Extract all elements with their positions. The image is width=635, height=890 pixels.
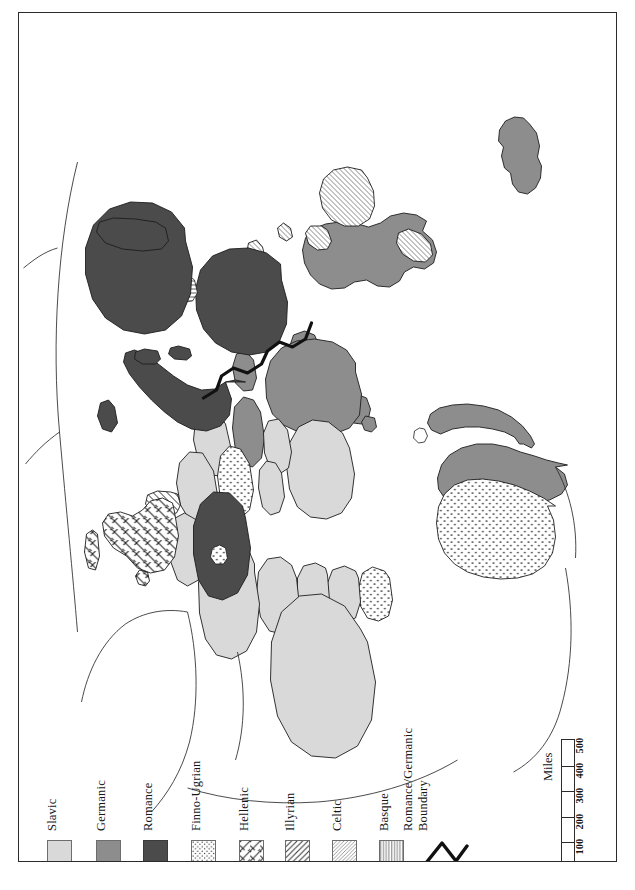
legend-label-slavic: Slavic <box>45 799 60 831</box>
legend-swatch-hellenic <box>239 840 264 862</box>
scale-bar-group: Miles 0 100 200 300 400 500 <box>539 731 617 862</box>
legend-swatch-finno-ugrian <box>191 840 216 862</box>
region-aegean-islands <box>135 570 149 586</box>
legend-label-illyrian: Illyrian <box>283 793 298 831</box>
region-iceland <box>498 117 541 194</box>
region-crete <box>84 530 99 570</box>
legend-label-romance: Romance <box>141 782 156 831</box>
legend-label-boundary-line2: Boundary <box>416 728 431 831</box>
scale-tick-200: 200 <box>574 814 585 830</box>
legend-label-basque: Basque <box>377 793 392 831</box>
region-cornwall-celtic <box>277 223 292 241</box>
legend-swatch-celtic <box>332 840 357 862</box>
region-estonia-finno-ugrian <box>358 567 392 621</box>
boundary-zigzag-icon <box>422 837 470 862</box>
legend-label-finno-ugrian: Finno-Ugrian <box>189 761 204 831</box>
region-corsica <box>168 346 191 360</box>
scale-tick-500: 500 <box>574 738 585 754</box>
map-legend: Slavic Germanic Romance Finno-Ugrian <box>39 703 469 862</box>
region-romania-romance <box>193 492 250 600</box>
region-sicily <box>97 400 117 432</box>
legend-label-boundary: Romance/Germanic Boundary <box>401 728 431 831</box>
map-frame: Slavic Germanic Romance Finno-Ugrian <box>18 12 617 862</box>
scale-tick-100: 100 <box>574 839 585 855</box>
legend-label-boundary-line1: Romance/Germanic <box>401 728 415 831</box>
legend-label-hellenic: Hellenic <box>237 787 252 831</box>
legend-swatch-germanic <box>96 840 121 862</box>
region-greece-hellenic <box>84 498 178 586</box>
scale-units-label: Miles <box>541 753 556 781</box>
region-ireland-celtic <box>319 167 374 226</box>
legend-swatch-basque <box>379 840 404 862</box>
map-page: Slavic Germanic Romance Finno-Ugrian <box>0 0 635 890</box>
region-poland <box>286 420 354 519</box>
legend-swatch-romance <box>143 840 168 862</box>
region-iberia-romance <box>85 202 192 334</box>
legend-label-celtic: Celtic <box>330 800 345 831</box>
scale-tick-400: 400 <box>574 763 585 779</box>
region-italy-romance <box>97 346 245 432</box>
legend-swatch-slavic <box>47 840 72 862</box>
legend-label-germanic: Germanic <box>94 780 109 831</box>
scale-tick-300: 300 <box>574 788 585 804</box>
legend-swatch-illyrian <box>285 840 310 862</box>
